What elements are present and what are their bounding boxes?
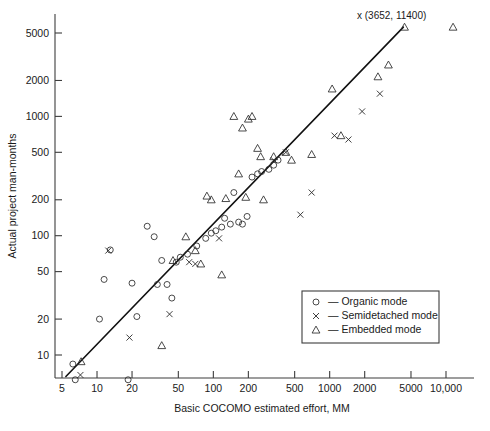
data-point: [271, 162, 277, 168]
x-tick-label: 5000: [399, 382, 423, 394]
y-axis-ticks: 102050100200500100020005000: [26, 27, 62, 361]
x-axis-ticks: 510205010020050010002000500010,000: [59, 371, 462, 394]
x-tick: 10: [91, 371, 103, 394]
y-tick: 100: [31, 229, 62, 241]
data-point: [182, 233, 190, 240]
legend-item-triangle: — Embedded mode: [312, 323, 421, 335]
data-point: [129, 280, 135, 286]
data-point: [169, 295, 175, 301]
y-tick-label: 20: [37, 313, 49, 325]
data-point: [185, 251, 191, 257]
data-point: [222, 195, 230, 202]
series-circle: [70, 157, 281, 383]
data-point: [308, 151, 316, 158]
data-point: [101, 276, 107, 282]
data-point: [191, 247, 199, 254]
x-tick: 5: [59, 371, 65, 394]
x-axis-label: Basic COCOMO estimated effort, MM: [174, 402, 349, 414]
y-tick-label: 50: [37, 265, 49, 277]
annotation-layer: x (3652, 11400): [357, 10, 426, 21]
data-point: [309, 190, 315, 196]
y-tick: 5000: [26, 27, 62, 39]
legend-label: — Embedded mode: [328, 323, 422, 335]
x-tick-label: 5: [59, 382, 65, 394]
data-point: [158, 342, 166, 349]
data-point: [134, 314, 140, 320]
y-tick-label: 2000: [26, 74, 50, 86]
x-tick: 50: [172, 371, 184, 394]
data-point: [359, 108, 365, 114]
y-tick: 2000: [26, 74, 62, 86]
y-tick-label: 1000: [26, 110, 50, 122]
x-tick-label: 200: [240, 382, 258, 394]
x-tick: 5000: [399, 371, 423, 394]
y-tick: 1000: [26, 110, 62, 122]
data-point: [257, 153, 265, 160]
data-point: [242, 193, 250, 200]
data-point: [77, 372, 83, 378]
data-point: [449, 23, 457, 30]
x-tick-label: 10: [91, 382, 103, 394]
x-tick: 2000: [353, 371, 377, 394]
y-tick: 20: [37, 313, 62, 325]
data-point: [374, 73, 382, 80]
x-tick-label: 10,000: [430, 382, 462, 394]
x-tick: 100: [205, 371, 223, 394]
data-point: [235, 170, 243, 177]
data-point: [216, 235, 222, 241]
data-point: [254, 144, 262, 151]
data-point: [328, 85, 336, 92]
x-tick: 10,000: [430, 371, 462, 394]
legend-label: — Organic mode: [328, 295, 408, 307]
data-point: [337, 132, 345, 139]
y-tick: 200: [31, 193, 62, 205]
data-point: [239, 124, 247, 131]
data-point: [249, 174, 255, 180]
x-tick-label: 50: [172, 382, 184, 394]
x-tick: 500: [286, 371, 304, 394]
y-tick: 50: [37, 265, 62, 277]
cocomo-scatter-chart: 102050100200500100020005000 510205010020…: [0, 0, 490, 431]
data-point: [377, 91, 383, 97]
data-point: [96, 316, 102, 322]
x-tick-label: 100: [205, 382, 223, 394]
data-point: [331, 133, 337, 139]
data-point: [345, 137, 351, 143]
x-tick: 200: [240, 371, 258, 394]
legend-label: — Semidetached mode: [328, 309, 438, 321]
y-tick: 10: [37, 349, 62, 361]
data-point: [288, 156, 296, 163]
data-point: [144, 223, 150, 229]
data-point: [297, 212, 303, 218]
y-tick-label: 5000: [26, 27, 50, 39]
x-tick-label: 20: [126, 382, 138, 394]
data-point: [230, 112, 238, 119]
data-point: [244, 213, 250, 219]
x-tick-label: 500: [286, 382, 304, 394]
data-point: [164, 281, 170, 287]
data-point: [159, 257, 165, 263]
y-tick-label: 10: [37, 349, 49, 361]
data-point: [203, 235, 209, 241]
data-point: [218, 271, 226, 278]
y-tick-label: 100: [31, 229, 49, 241]
data-point: [385, 61, 393, 68]
outlier-annotation: x (3652, 11400): [357, 10, 426, 21]
plot-canvas: 102050100200500100020005000 510205010020…: [0, 0, 490, 431]
data-point: [167, 311, 173, 317]
data-point: [231, 190, 237, 196]
x-tick-label: 2000: [353, 382, 377, 394]
data-point: [126, 335, 132, 341]
legend: — Organic mode— Semidetached mode— Embed…: [302, 291, 439, 343]
x-tick-label: 1000: [318, 382, 342, 394]
data-point: [227, 221, 233, 227]
y-tick: 500: [31, 146, 62, 158]
data-point: [186, 259, 192, 265]
x-tick: 1000: [318, 371, 342, 394]
data-point: [222, 215, 228, 221]
data-point: [219, 224, 225, 230]
legend-item-x: — Semidetached mode: [313, 309, 438, 321]
y-tick-label: 500: [31, 146, 49, 158]
data-point: [260, 196, 268, 203]
y-tick-label: 200: [31, 193, 49, 205]
